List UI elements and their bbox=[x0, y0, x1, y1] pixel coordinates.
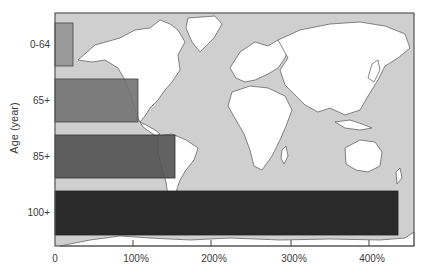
y-label-65-plus: 65+ bbox=[33, 95, 50, 106]
y-label-0-64: 0-64 bbox=[30, 39, 50, 50]
bar-85-plus bbox=[55, 135, 175, 178]
y-label-85-plus: 85+ bbox=[33, 151, 50, 162]
x-tick-400: 400% bbox=[359, 253, 385, 264]
x-tick-300: 300% bbox=[281, 253, 307, 264]
bar-100-plus bbox=[55, 191, 398, 235]
y-axis-title: Age (year) bbox=[8, 102, 20, 153]
bar-chart-over-world-map: 0 100% 200% 300% 400% 0-64 65+ 85+ 100+ … bbox=[0, 0, 427, 277]
x-tick-0: 0 bbox=[52, 253, 58, 264]
y-label-100-plus: 100+ bbox=[27, 207, 50, 218]
bar-0-64 bbox=[55, 23, 73, 66]
x-tick-100: 100% bbox=[123, 253, 149, 264]
bar-65-plus bbox=[55, 79, 138, 122]
x-tick-200: 200% bbox=[201, 253, 227, 264]
